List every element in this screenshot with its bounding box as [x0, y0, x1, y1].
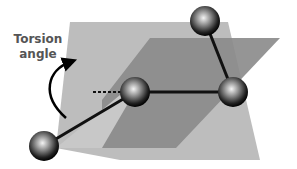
atom-top — [190, 6, 220, 36]
atom-center — [120, 77, 150, 107]
atom-right — [218, 77, 248, 107]
torsion-angle-diagram — [0, 0, 297, 169]
atom-bottom-left — [29, 131, 59, 161]
torsion-angle-label: Torsion angle — [8, 32, 68, 62]
label-line-1: Torsion — [8, 32, 68, 47]
label-line-2: angle — [8, 47, 68, 62]
